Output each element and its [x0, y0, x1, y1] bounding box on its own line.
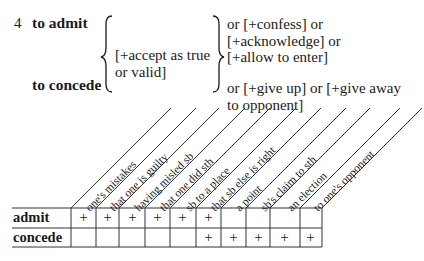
admit-gloss-line2: [+acknowledge] or — [227, 33, 341, 50]
grid-cell: + — [170, 209, 195, 226]
shared-gloss-line2: or valid] — [115, 64, 166, 81]
row-label-admit: admit — [13, 209, 49, 226]
grid-cell: + — [95, 209, 120, 226]
left-brace-icon — [101, 16, 112, 92]
row-label-concede: concede — [13, 229, 62, 246]
grid-cell: + — [120, 209, 145, 226]
shared-gloss-line1: [+accept as true — [115, 47, 210, 64]
grid-cell: + — [145, 209, 170, 226]
grid-cell: + — [196, 229, 221, 246]
grid-cell: + — [221, 229, 246, 246]
grid-cell: + — [272, 229, 297, 246]
grid-cell: + — [298, 229, 323, 246]
concede-gloss-line1: or [+give up] or [+give away — [227, 80, 401, 97]
grid-cell: + — [196, 209, 221, 226]
concede-gloss-line2: to opponent] — [227, 97, 303, 114]
admit-gloss-line3: [+allow to enter] — [227, 49, 328, 66]
admit-gloss-line1: or [+confess] or — [227, 16, 323, 33]
grid-cell: + — [246, 229, 271, 246]
grid-cell: + — [71, 209, 96, 226]
right-brace-icon — [213, 16, 224, 92]
